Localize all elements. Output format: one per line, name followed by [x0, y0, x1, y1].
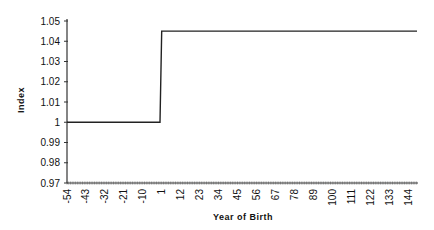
- x-tick-label: 100: [327, 189, 338, 206]
- x-tick-label: 144: [403, 189, 414, 206]
- y-tick-label: 0.99: [41, 137, 61, 148]
- y-tick-label: 0.98: [41, 157, 61, 168]
- x-tick-label: -10: [137, 189, 148, 204]
- x-tick-label: 111: [346, 189, 357, 205]
- x-tick-label: -54: [62, 189, 73, 204]
- x-axis: -54-43-32-21-101122334455667788910011112…: [62, 182, 419, 206]
- x-axis-title: Year of Birth: [213, 212, 273, 222]
- x-tick-label: 23: [194, 189, 205, 201]
- y-axis-title: Index: [16, 87, 26, 113]
- x-tick-label: -32: [99, 189, 110, 204]
- y-tick-label: 1.05: [41, 16, 61, 27]
- y-tick-label: 1.02: [41, 76, 61, 87]
- x-tick-label: 89: [308, 189, 319, 201]
- y-tick-label: 0.97: [41, 178, 61, 189]
- x-tick-label: -43: [80, 189, 91, 204]
- x-tick-label: 45: [232, 189, 243, 201]
- y-tick-label: 1.03: [41, 56, 61, 67]
- y-tick-label: 1.01: [41, 97, 61, 108]
- x-tick-label: -21: [118, 189, 129, 204]
- x-tick-label: 78: [289, 189, 300, 201]
- step-line-chart: 0.970.980.9911.011.021.031.041.05 -54-43…: [0, 0, 434, 230]
- x-tick-label: 12: [175, 189, 186, 201]
- x-tick-label: 34: [213, 189, 224, 201]
- x-tick-label: 122: [365, 189, 376, 206]
- x-tick-label: 67: [270, 189, 281, 201]
- x-tick-label: 1: [156, 189, 167, 195]
- y-axis: 0.970.980.9911.011.021.031.041.05: [41, 16, 68, 189]
- series-line: [67, 31, 417, 122]
- y-tick-label: 1.04: [41, 36, 61, 47]
- data-series: [67, 31, 417, 122]
- x-tick-label: 133: [384, 189, 395, 206]
- x-tick-label: 56: [251, 189, 262, 201]
- y-tick-label: 1: [54, 117, 60, 128]
